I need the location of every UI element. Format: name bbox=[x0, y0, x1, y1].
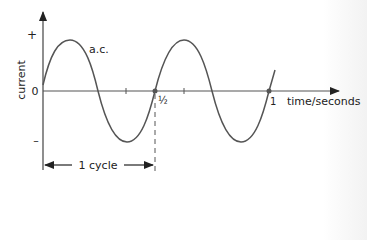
x-tick-half: ½ bbox=[158, 95, 168, 106]
y-tick-zero: 0 bbox=[32, 85, 39, 98]
half-second-marker bbox=[153, 89, 158, 94]
one-second-marker bbox=[267, 89, 272, 94]
y-tick-plus: + bbox=[27, 28, 37, 42]
x-tick-one: 1 bbox=[270, 96, 276, 107]
y-tick-minus: – bbox=[33, 134, 39, 147]
ac-waveform-diagram: + 0 – current a.c. ½ 1 time/seconds 1 cy… bbox=[0, 0, 367, 186]
cycle-label: 1 cycle bbox=[79, 159, 118, 172]
x-axis-label: time/seconds bbox=[287, 95, 361, 108]
y-axis-label: current bbox=[15, 59, 28, 99]
curve-label: a.c. bbox=[89, 43, 109, 56]
